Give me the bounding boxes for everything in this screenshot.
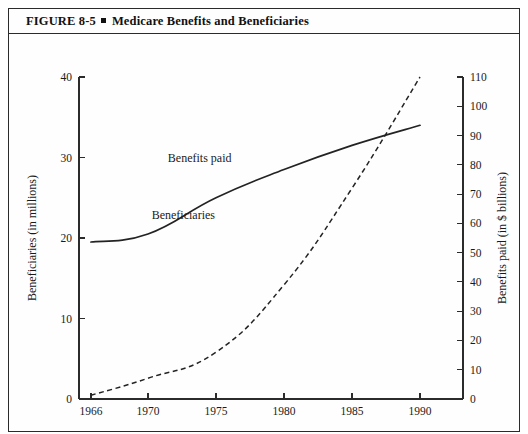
svg-text:60: 60 bbox=[470, 217, 482, 229]
svg-text:30: 30 bbox=[61, 152, 73, 164]
figure-panel: FIGURE 8-5Medicare Benefits and Benefici… bbox=[8, 8, 520, 432]
svg-text:50: 50 bbox=[470, 247, 482, 259]
series-label-beneficiaries: Beneficiaries bbox=[152, 208, 216, 222]
svg-text:20: 20 bbox=[470, 334, 482, 346]
y-axis-title: Beneficiaries (in millions) bbox=[25, 175, 39, 301]
svg-text:1970: 1970 bbox=[137, 405, 160, 417]
left-axis-ticks: 010203040 bbox=[61, 71, 86, 405]
svg-text:0: 0 bbox=[470, 393, 476, 405]
x-axis-ticks: 196619701975198019851990 bbox=[80, 393, 432, 417]
svg-text:70: 70 bbox=[470, 188, 482, 200]
svg-text:80: 80 bbox=[470, 159, 482, 171]
figure-number: FIGURE 8-5 bbox=[26, 14, 96, 28]
svg-text:10: 10 bbox=[470, 364, 482, 376]
svg-text:20: 20 bbox=[61, 232, 73, 244]
series-label-benefits-paid: Benefits paid bbox=[168, 151, 232, 165]
svg-text:10: 10 bbox=[61, 313, 73, 325]
svg-text:1985: 1985 bbox=[341, 405, 364, 417]
figure-title-text: Medicare Benefits and Beneficiaries bbox=[112, 14, 309, 28]
svg-text:100: 100 bbox=[470, 100, 488, 112]
svg-text:110: 110 bbox=[470, 71, 487, 83]
medicare-line-chart: 010203040 0102030405060708090100110 1966… bbox=[9, 34, 521, 431]
svg-text:1990: 1990 bbox=[409, 405, 432, 417]
y2-axis-title: Benefits paid (in $ billions) bbox=[495, 172, 509, 304]
svg-text:30: 30 bbox=[470, 305, 482, 317]
svg-text:40: 40 bbox=[470, 276, 482, 288]
svg-text:90: 90 bbox=[470, 130, 482, 142]
page-title: FIGURE 8-5Medicare Benefits and Benefici… bbox=[9, 14, 309, 29]
svg-text:1975: 1975 bbox=[205, 405, 228, 417]
right-axis-ticks: 0102030405060708090100110 bbox=[457, 71, 488, 405]
svg-text:40: 40 bbox=[61, 71, 73, 83]
chart-area: 010203040 0102030405060708090100110 1966… bbox=[9, 34, 521, 431]
svg-text:1980: 1980 bbox=[273, 405, 296, 417]
title-separator-icon bbox=[101, 18, 106, 23]
svg-text:1966: 1966 bbox=[80, 405, 103, 417]
series-line-beneficiaries bbox=[91, 125, 420, 242]
svg-text:0: 0 bbox=[66, 393, 72, 405]
figure-title-bar: FIGURE 8-5Medicare Benefits and Benefici… bbox=[9, 9, 519, 34]
